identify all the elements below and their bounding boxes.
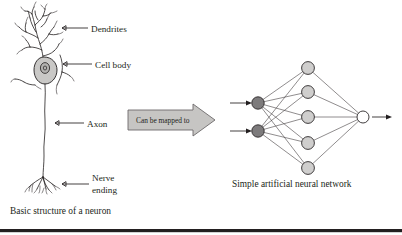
neural-network-diagram: Simple artificial neural network [230, 62, 392, 189]
label-cell-body: Cell body [95, 60, 131, 70]
hidden-node-1 [302, 62, 315, 75]
hidden-node-5 [302, 162, 315, 175]
hidden-node-3 [302, 111, 315, 124]
label-dendrites: Dendrites [91, 24, 127, 34]
input-node-1 [252, 97, 264, 109]
network-output-arrow [372, 114, 392, 119]
cell-body-drawing [34, 57, 57, 84]
input-node-2 [252, 125, 264, 137]
edges-input-hidden [258, 68, 308, 168]
caption-network: Simple artificial neural network [232, 179, 352, 189]
output-node-1 [357, 111, 369, 123]
mapping-arrow-label: Can be mapped to [136, 116, 190, 125]
axon-drawing [43, 84, 45, 177]
mapping-arrow: Can be mapped to [128, 104, 215, 136]
figure-canvas: Dendrites Cell body Axon Nerve ending Ba… [0, 0, 402, 235]
hidden-node-2 [302, 86, 315, 99]
figure-neuron-to-ann: Dendrites Cell body Axon Nerve ending Ba… [0, 0, 402, 235]
label-axon: Axon [87, 119, 108, 129]
edges-hidden-output [308, 68, 363, 168]
input-layer [252, 97, 264, 137]
hidden-layer [302, 62, 315, 175]
hidden-node-4 [302, 137, 315, 150]
biological-neuron-drawing: Dendrites Cell body Axon Nerve ending Ba… [10, 2, 131, 216]
dendrites-drawing [15, 2, 63, 63]
leader-lines [55, 26, 92, 187]
caption-neuron: Basic structure of a neuron [10, 206, 111, 216]
network-input-arrows [230, 100, 252, 133]
label-nerve-ending-line2: ending [92, 185, 117, 195]
nucleus [40, 63, 49, 74]
label-nerve-ending-line1: Nerve [92, 173, 114, 183]
bottom-rule [0, 229, 402, 232]
nerve-ending-drawing [25, 177, 60, 194]
